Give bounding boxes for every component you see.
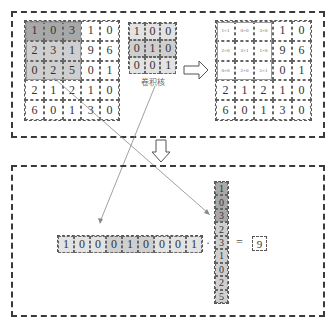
right-arrow-icon <box>184 61 208 79</box>
product-matrix-cell: 1 <box>292 61 311 81</box>
product-matrix-cell: 3×0 <box>254 21 273 41</box>
column-vector-cell: 5 <box>215 290 228 303</box>
row-vector-cell: 0 <box>74 236 90 253</box>
product-matrix-cell: 5×1 <box>254 61 273 81</box>
product-matrix-cell: 6 <box>292 41 311 61</box>
product-matrix-cell: 0 <box>292 80 311 100</box>
column-vector-cell: 3 <box>215 236 228 249</box>
product-matrix-cell: 0×0 <box>235 21 254 41</box>
product-matrix-cell: 0 <box>235 100 254 120</box>
product-matrix-cell: 1×1 <box>216 21 235 41</box>
row-vector-cell: 1 <box>58 236 74 253</box>
column-vector-cell: 2 <box>215 222 228 235</box>
product-matrix-cell: 6 <box>216 100 235 120</box>
row-vector-cell: 0 <box>138 236 154 253</box>
equals-operator: = <box>236 235 243 250</box>
product-matrix-cell: 1 <box>273 80 292 100</box>
down-arrow-icon <box>152 140 170 162</box>
column-vector-cell: 0 <box>215 195 228 208</box>
row-vector-cell: 0 <box>170 236 186 253</box>
column-vector-cell: 2 <box>215 276 228 289</box>
product-matrix-cell: 3×1 <box>235 41 254 61</box>
product-matrix-cell: 0 <box>273 61 292 81</box>
input-column-vector: 103231025 <box>214 181 229 304</box>
product-matrix-cell: 0 <box>292 21 311 41</box>
column-vector-cell: 0 <box>215 263 228 276</box>
row-vector-cell: 0 <box>90 236 106 253</box>
row-vector-cell: 1 <box>122 236 138 253</box>
product-matrix-cell: 0 <box>292 100 311 120</box>
product-matrix-cell: 2 <box>216 80 235 100</box>
product-matrix-cell: 2×0 <box>216 41 235 61</box>
kernel-row-vector: 100010001 <box>57 235 203 252</box>
dot-operator: · <box>206 236 210 251</box>
result-value: 9 <box>253 237 266 250</box>
product-matrix-cell: 1 <box>235 80 254 100</box>
product-matrix-cell: 9 <box>273 41 292 61</box>
row-vector-cell: 0 <box>106 236 122 253</box>
column-vector-cell: 1 <box>215 249 228 262</box>
result-box: 9 <box>252 236 267 251</box>
product-matrix-cell: 1 <box>273 21 292 41</box>
product-matrix-cell: 1×0 <box>254 41 273 61</box>
row-vector-cell: 1 <box>186 236 202 253</box>
product-matrix-cell: 1 <box>254 100 273 120</box>
column-vector-cell: 1 <box>215 182 228 195</box>
product-matrix-cell: 0×0 <box>216 61 235 81</box>
product-matrix-cell: 2 <box>254 80 273 100</box>
column-vector-cell: 3 <box>215 209 228 222</box>
product-matrix: 1×10×03×0102×03×11×0960×02×05×1012121060… <box>215 20 312 121</box>
row-vector-cell: 0 <box>154 236 170 253</box>
product-matrix-cell: 2×0 <box>235 61 254 81</box>
product-matrix-cell: 3 <box>273 100 292 120</box>
